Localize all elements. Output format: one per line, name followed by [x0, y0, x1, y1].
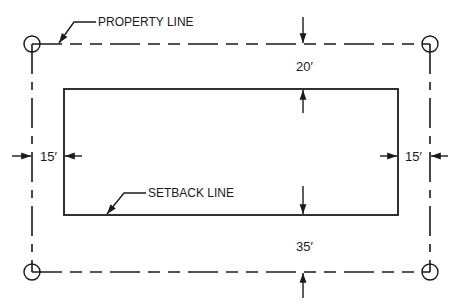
property-line-label: PROPERTY LINE [98, 15, 194, 29]
front-dimension-value: 20′ [296, 59, 313, 74]
setback-diagram: PROPERTY LINE SETBACK LINE 20′ 35′ 15′ [0, 0, 458, 305]
setback-line-leader [107, 193, 146, 214]
setback-line-label: SETBACK LINE [148, 186, 234, 200]
property-line-leader [59, 22, 96, 43]
left-side-dimension-value: 15′ [40, 149, 57, 164]
rear-dimension-value: 35′ [296, 239, 313, 254]
property-line [32, 44, 430, 272]
corner-markers [24, 36, 438, 280]
right-side-dimension-value: 15′ [405, 149, 422, 164]
